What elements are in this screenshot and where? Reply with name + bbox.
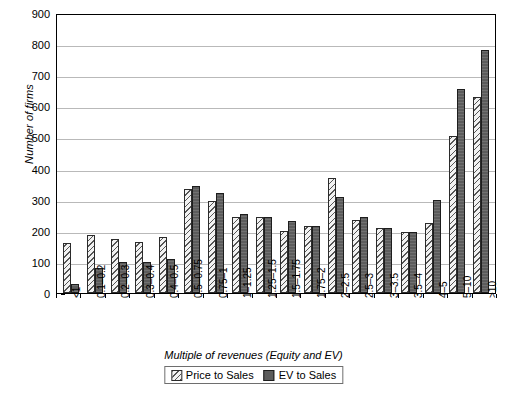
x-axis-tick-label: 1.75–2 — [317, 267, 327, 298]
bar-groups — [57, 15, 495, 293]
plot-area — [56, 14, 496, 294]
bar-chart: Number of firms 900800700600500400300200… — [0, 0, 507, 393]
x-axis-tick-label: 0.3–0.4 — [146, 265, 156, 298]
bar-group — [59, 15, 83, 293]
x-axis-tick-label: 0.5–0.75 — [194, 259, 204, 298]
x-axis-label-cell: 2–2.5 — [325, 296, 349, 348]
bar-group — [421, 15, 445, 293]
bar-price-to-sales — [111, 239, 119, 293]
y-axis-tick-label: 900 — [16, 9, 50, 20]
x-axis-label-cell: 5–10 — [447, 296, 471, 348]
x-axis-label-cell: 2.5–3 — [349, 296, 373, 348]
x-axis-tick-label: 0.1–0.2 — [97, 265, 107, 298]
bar-ev-to-sales — [433, 200, 441, 293]
bar-price-to-sales — [184, 189, 192, 293]
x-axis-tick-labels: <10.1–0.20.2–0.30.3–0.40.4–0.50.5–0.750.… — [56, 296, 496, 348]
legend-item: Price to Sales — [171, 369, 254, 381]
legend-label: EV to Sales — [279, 369, 336, 381]
x-axis-label-cell: 1.75–2 — [300, 296, 324, 348]
x-axis-label-cell: 0.4–0.5 — [154, 296, 178, 348]
x-axis-label-cell: 0.3–0.4 — [129, 296, 153, 348]
x-axis-tick-label: 1.5–1.75 — [292, 259, 302, 298]
x-axis-tick-label: 1.25–1.5 — [268, 259, 278, 298]
bar-price-to-sales — [280, 231, 288, 293]
bar-price-to-sales — [352, 220, 360, 293]
y-axis-tick-label: 700 — [16, 71, 50, 82]
x-axis-label-cell: 0.75–1 — [203, 296, 227, 348]
x-axis-label-cell: 1–1.25 — [227, 296, 251, 348]
legend-item: EV to Sales — [264, 369, 336, 381]
bar-price-to-sales — [208, 201, 216, 293]
x-axis-label-cell: 0.5–0.75 — [178, 296, 202, 348]
bar-group — [445, 15, 469, 293]
x-axis-tick-label: 3–3.5 — [390, 273, 400, 298]
x-axis-label-cell: 0.1–0.2 — [80, 296, 104, 348]
bar-group — [155, 15, 179, 293]
x-axis-label-cell: 3.5–4 — [398, 296, 422, 348]
legend-label: Price to Sales — [186, 369, 254, 381]
bar-group — [372, 15, 396, 293]
bar-group — [131, 15, 155, 293]
bar-group — [348, 15, 372, 293]
x-axis-tick-label: 0.75–1 — [219, 267, 229, 298]
y-axis-tick-label: 800 — [16, 40, 50, 51]
y-axis-tick-label: 200 — [16, 226, 50, 237]
bar-group — [204, 15, 228, 293]
chart-legend: Price to SalesEV to Sales — [164, 366, 343, 384]
x-axis-label-cell: 3–3.5 — [374, 296, 398, 348]
bar-price-to-sales — [425, 223, 433, 293]
x-axis-tick-label: 1–1.25 — [243, 267, 253, 298]
y-axis-tick-label: 400 — [16, 164, 50, 175]
bar-group — [324, 15, 348, 293]
y-axis-tick-label: 500 — [16, 133, 50, 144]
bar-group — [276, 15, 300, 293]
bar-price-to-sales — [473, 97, 481, 293]
legend-swatch-price-to-sales — [171, 370, 182, 381]
x-axis-label-cell: 1.25–1.5 — [252, 296, 276, 348]
y-axis-tick-label: 0 — [16, 289, 50, 300]
bar-group — [180, 15, 204, 293]
bar-price-to-sales — [87, 235, 95, 293]
bar-group — [469, 15, 493, 293]
bar-price-to-sales — [159, 237, 167, 293]
bar-group — [252, 15, 276, 293]
y-axis-tick-label: 300 — [16, 195, 50, 206]
x-axis-title: Multiple of revenues (Equity and EV) — [0, 349, 507, 361]
bar-group — [300, 15, 324, 293]
x-axis-label-cell: 0.2–0.3 — [105, 296, 129, 348]
x-axis-tick-label: 0.2–0.3 — [121, 265, 131, 298]
bar-group — [397, 15, 421, 293]
y-axis-tick-label: 600 — [16, 102, 50, 113]
bar-price-to-sales — [63, 243, 71, 293]
x-axis-tick-label: 0.4–0.5 — [170, 265, 180, 298]
bar-price-to-sales — [232, 217, 240, 293]
x-axis-label-cell: 4–5 — [423, 296, 447, 348]
x-axis-label-cell: <1 — [56, 296, 80, 348]
bar-ev-to-sales — [481, 50, 489, 293]
x-axis-tick-label: 3.5–4 — [414, 273, 424, 298]
legend-swatch-ev-to-sales — [264, 370, 275, 381]
x-axis-tick-label: >10 — [488, 281, 498, 298]
x-axis-label-cell: >10 — [471, 296, 495, 348]
bar-price-to-sales — [328, 178, 336, 293]
bar-price-to-sales — [401, 232, 409, 293]
x-axis-tick-label: 2.5–3 — [365, 273, 375, 298]
bar-group — [228, 15, 252, 293]
bar-ev-to-sales — [457, 89, 465, 293]
x-axis-label-cell: 1.5–1.75 — [276, 296, 300, 348]
x-axis-tick-label: 2–2.5 — [341, 273, 351, 298]
bar-price-to-sales — [135, 242, 143, 293]
bar-price-to-sales — [256, 217, 264, 293]
bar-price-to-sales — [304, 226, 312, 293]
y-axis-tick-label: 100 — [16, 257, 50, 268]
bar-price-to-sales — [449, 136, 457, 293]
bar-price-to-sales — [376, 228, 384, 293]
y-axis-tick-labels: 9008007006005004003002001000 — [10, 0, 50, 393]
bar-group — [83, 15, 107, 293]
bar-group — [107, 15, 131, 293]
x-axis-tick-label: 5–10 — [463, 276, 473, 298]
